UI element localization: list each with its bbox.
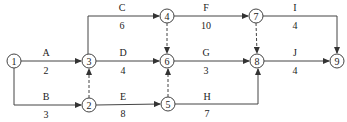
node-4-label: 4	[165, 11, 170, 22]
activity-g-name: G	[202, 47, 209, 58]
activity-b-name: B	[43, 91, 50, 102]
activity-j-name: J	[293, 47, 297, 58]
activity-i-duration: 4	[293, 20, 298, 31]
activity-a-name: A	[42, 47, 50, 58]
activity-h-duration: 7	[205, 108, 210, 119]
activity-e-name: E	[120, 91, 126, 102]
node-7-label: 7	[254, 11, 259, 22]
network-diagram: 1 2 3 4 5 6 7 8 9 A 2 B 3 C 6 D 4 E 8 F …	[0, 0, 347, 122]
arrow-h	[175, 69, 258, 104]
activity-f-duration: 10	[201, 20, 211, 31]
activity-d-name: D	[119, 47, 126, 58]
activity-a-duration: 2	[44, 65, 49, 76]
activity-b-duration: 3	[44, 109, 49, 120]
activity-i-name: I	[293, 2, 296, 13]
node-6-label: 6	[165, 56, 170, 67]
activity-e-duration: 8	[121, 108, 126, 119]
dummy-7-8	[256, 23, 257, 53]
activity-h-name: H	[203, 91, 210, 102]
arrow-i	[263, 16, 337, 53]
node-1-label: 1	[12, 56, 17, 67]
arrow-e	[96, 104, 160, 105]
activity-j-duration: 4	[293, 65, 298, 76]
node-5-label: 5	[166, 99, 171, 110]
node-8-label: 8	[255, 56, 260, 67]
activity-c-duration: 6	[120, 20, 125, 31]
node-9-label: 9	[335, 56, 340, 67]
node-2-label: 2	[87, 100, 92, 111]
node-3-label: 3	[87, 56, 92, 67]
activity-g-duration: 3	[204, 65, 209, 76]
activity-c-name: C	[119, 2, 126, 13]
activity-f-name: F	[203, 2, 209, 13]
activity-d-duration: 4	[121, 65, 126, 76]
